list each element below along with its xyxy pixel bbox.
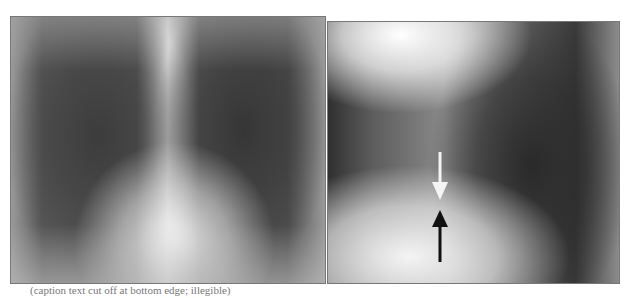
black-arrow-icon — [432, 210, 448, 262]
arrow-annotations — [328, 22, 619, 283]
lateral-chest-xray — [327, 21, 620, 284]
frontal-chest-xray — [10, 16, 326, 284]
white-arrow-icon — [432, 152, 448, 200]
figure-caption: (caption text cut off at bottom edge; il… — [30, 284, 620, 298]
